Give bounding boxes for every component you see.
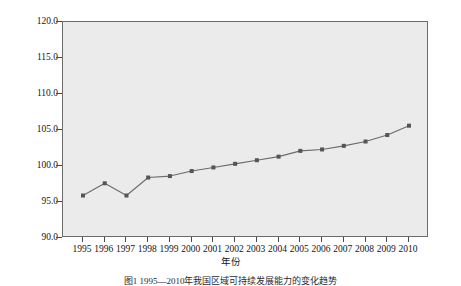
x-tick-mark	[256, 237, 257, 242]
data-point-marker	[168, 174, 172, 178]
x-tick-mark	[147, 237, 148, 242]
data-point-marker	[298, 149, 302, 153]
y-tick-mark	[56, 237, 62, 238]
y-tick-label: 95.0	[22, 196, 58, 206]
y-tick-label: 90.0	[22, 232, 58, 242]
data-point-marker	[407, 124, 411, 128]
x-axis-title: 年份	[0, 256, 461, 268]
x-tick-mark	[191, 237, 192, 242]
data-series-canvas	[63, 22, 429, 238]
data-point-markers	[81, 124, 411, 198]
x-tick-mark	[212, 237, 213, 242]
data-point-marker	[385, 133, 389, 137]
data-point-marker	[211, 165, 215, 169]
data-point-marker	[124, 194, 128, 198]
x-tick-mark	[408, 237, 409, 242]
data-point-marker	[320, 147, 324, 151]
figure-caption: 图1 1995—2010年我国区域可持续发展能力的变化趋势	[0, 275, 461, 286]
x-tick-mark	[299, 237, 300, 242]
y-tick-label: 100.0	[22, 160, 58, 170]
x-tick-mark	[321, 237, 322, 242]
x-tick-mark	[82, 237, 83, 242]
data-point-marker	[364, 140, 368, 144]
data-point-marker	[277, 155, 281, 159]
data-point-marker	[146, 176, 150, 180]
x-tick-mark	[169, 237, 170, 242]
y-tick-label: 120.0	[22, 16, 58, 26]
line-series-sustainability	[83, 126, 409, 196]
y-tick-label: 105.0	[22, 124, 58, 134]
figure-chart: 可持续发展能力(1995年全国为100) 120.0 115.0 110.0 1…	[0, 0, 461, 286]
x-tick-mark	[365, 237, 366, 242]
x-tick-mark	[386, 237, 387, 242]
x-tick-mark	[278, 237, 279, 242]
x-tick-label: 2010	[391, 243, 425, 255]
x-axis-tick-labels: 1995199619971998199920002001200220032004…	[0, 243, 461, 257]
data-point-marker	[233, 162, 237, 166]
y-tick-label: 110.0	[22, 88, 58, 98]
data-point-marker	[81, 194, 85, 198]
data-point-marker	[255, 158, 259, 162]
x-tick-mark	[104, 237, 105, 242]
data-point-marker	[190, 169, 194, 173]
data-point-marker	[103, 181, 107, 185]
x-tick-mark	[343, 237, 344, 242]
x-tick-mark	[125, 237, 126, 242]
data-point-marker	[342, 144, 346, 148]
plot-area	[62, 21, 428, 237]
x-tick-mark	[234, 237, 235, 242]
y-tick-label: 115.0	[22, 52, 58, 62]
